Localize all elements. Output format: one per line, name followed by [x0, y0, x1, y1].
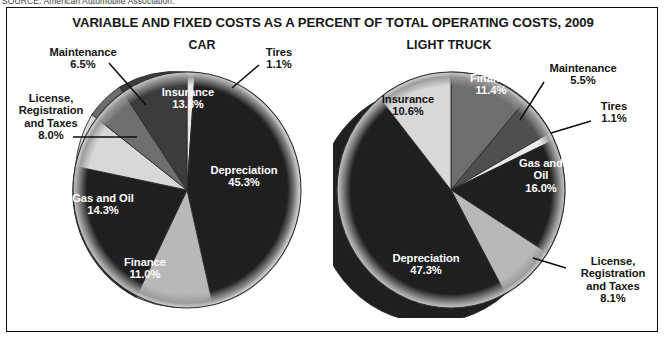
label-truck-maintenance: Maintenance 5.5% — [533, 62, 633, 87]
label-truck-finance: Finance 11.4% — [455, 72, 527, 97]
label-car-gas: Gas and Oil 14.3% — [52, 192, 154, 217]
label-truck-depreciation: Depreciation 47.3% — [370, 252, 482, 277]
label-truck-gas: Gas and Oil 16.0% — [504, 157, 578, 194]
label-car-maintenance: Maintenance 6.5% — [31, 46, 135, 71]
panel-title-truck: LIGHT TRUCK — [389, 38, 509, 52]
label-car-tires: Tires 1.1% — [248, 46, 310, 71]
label-truck-license: License, Registration and Taxes 8.1% — [566, 255, 660, 305]
label-car-finance: Finance 11.0% — [106, 256, 184, 281]
page-title: VARIABLE AND FIXED COSTS AS A PERCENT OF… — [7, 15, 659, 30]
label-car-license: License, Registration and Taxes 8.0% — [6, 92, 96, 142]
label-truck-tires: Tires 1.1% — [583, 100, 645, 125]
label-car-depreciation: Depreciation 45.3% — [190, 164, 298, 189]
source-note: SOURCE: American Automobile Association. — [2, 0, 175, 6]
panel-title-car: CAR — [157, 38, 247, 52]
chart-page: SOURCE: American Automobile Association.… — [0, 0, 666, 341]
label-truck-insurance: Insurance 10.6% — [365, 93, 451, 118]
label-car-insurance: Insurance 13.8% — [142, 86, 234, 111]
